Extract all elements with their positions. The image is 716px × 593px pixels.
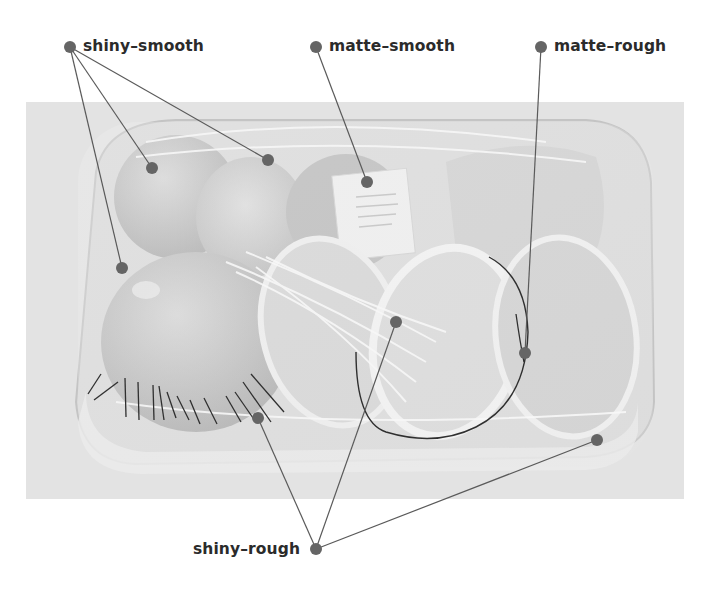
target-dot	[116, 262, 128, 274]
leader-lines	[70, 47, 597, 549]
target-dot	[361, 176, 373, 188]
anchor-dot-shiny-rough	[310, 543, 322, 555]
target-dot	[146, 162, 158, 174]
markers	[64, 41, 603, 555]
target-dot	[390, 316, 402, 328]
target-dot	[519, 347, 531, 359]
anchor-dot-matte-smooth	[310, 41, 322, 53]
anchor-dot-shiny-smooth	[64, 41, 76, 53]
target-dot	[252, 412, 264, 424]
label-shiny-rough: shiny–rough	[193, 540, 300, 558]
anchor-dot-matte-rough	[535, 41, 547, 53]
label-matte-rough: matte–rough	[554, 37, 666, 55]
target-dot	[591, 434, 603, 446]
label-matte-smooth: matte–smooth	[329, 37, 455, 55]
label-shiny-smooth: shiny–smooth	[83, 37, 204, 55]
annotation-overlay	[0, 0, 716, 593]
target-dot	[262, 154, 274, 166]
